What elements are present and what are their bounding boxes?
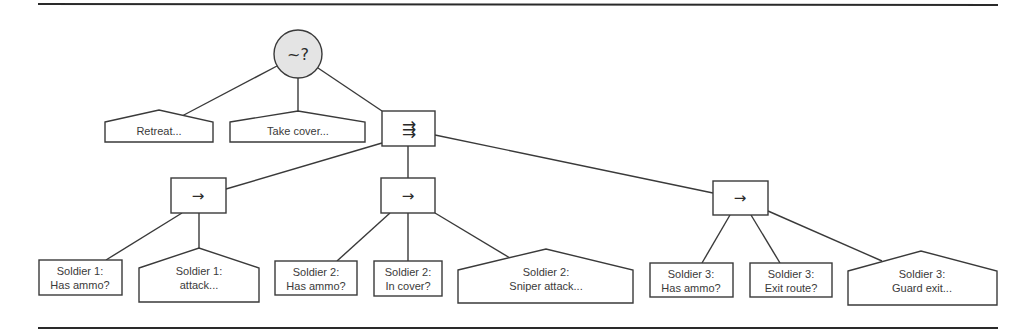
condition-node-s1-has-ammo: Soldier 1: Has ammo? — [39, 260, 122, 295]
condition-label-line1: Soldier 3: — [668, 268, 714, 280]
sequence-node-3: → — [713, 181, 768, 215]
parallel-icon: ⇶ — [402, 119, 416, 139]
action-node-s1-attack: Soldier 1: attack... — [139, 248, 259, 302]
condition-node-s2-has-ammo: Soldier 2: Has ammo? — [275, 261, 357, 295]
action-node-s2-sniper-attack: Soldier 2: Sniper attack... — [458, 249, 633, 303]
action-label-line1: Soldier 2: — [523, 266, 569, 278]
condition-label-line1: Soldier 2: — [293, 266, 339, 278]
action-label: Take cover... — [267, 125, 329, 137]
parallel-node: ⇶ — [382, 111, 435, 146]
behavior-tree-diagram: ~? Retreat... Take cover... ⇶ → → → Sold… — [0, 0, 1036, 335]
action-label-line2: Sniper attack... — [509, 280, 582, 292]
condition-label-line1: Soldier 1: — [57, 265, 103, 277]
action-label-line1: Soldier 1: — [176, 265, 222, 277]
action-node-take-cover: Take cover... — [230, 111, 365, 142]
condition-node-s3-exit-route: Soldier 3: Exit route? — [750, 263, 832, 297]
condition-label-line2: Has ammo? — [286, 280, 345, 292]
sequence-arrow-icon: → — [192, 187, 205, 205]
sequence-node-1: → — [171, 178, 226, 213]
edges — [106, 66, 882, 263]
action-node-s3-guard-exit: Soldier 3: Guard exit... — [848, 251, 997, 305]
condition-label-line1: Soldier 2: — [385, 266, 431, 278]
condition-node-s2-in-cover: Soldier 2: In cover? — [374, 261, 442, 296]
condition-label-line2: Exit route? — [765, 282, 818, 294]
action-label-line1: Soldier 3: — [899, 268, 945, 280]
sequence-arrow-icon: → — [734, 189, 747, 207]
sequence-node-2: → — [381, 178, 435, 213]
action-label-line2: attack... — [180, 279, 219, 291]
root-random-selector-node: ~? — [274, 30, 322, 78]
condition-label-line1: Soldier 3: — [768, 268, 814, 280]
action-label-line2: Guard exit... — [892, 282, 952, 294]
action-label: Retreat... — [136, 125, 181, 137]
sequence-arrow-icon: → — [402, 187, 415, 205]
action-node-retreat: Retreat... — [105, 110, 213, 142]
random-selector-icon: ~? — [287, 45, 309, 64]
condition-label-line2: In cover? — [385, 280, 430, 292]
condition-label-line2: Has ammo? — [661, 282, 720, 294]
condition-label-line2: Has ammo? — [50, 279, 109, 291]
condition-node-s3-has-ammo: Soldier 3: Has ammo? — [650, 263, 733, 297]
top-rule — [38, 4, 998, 5]
